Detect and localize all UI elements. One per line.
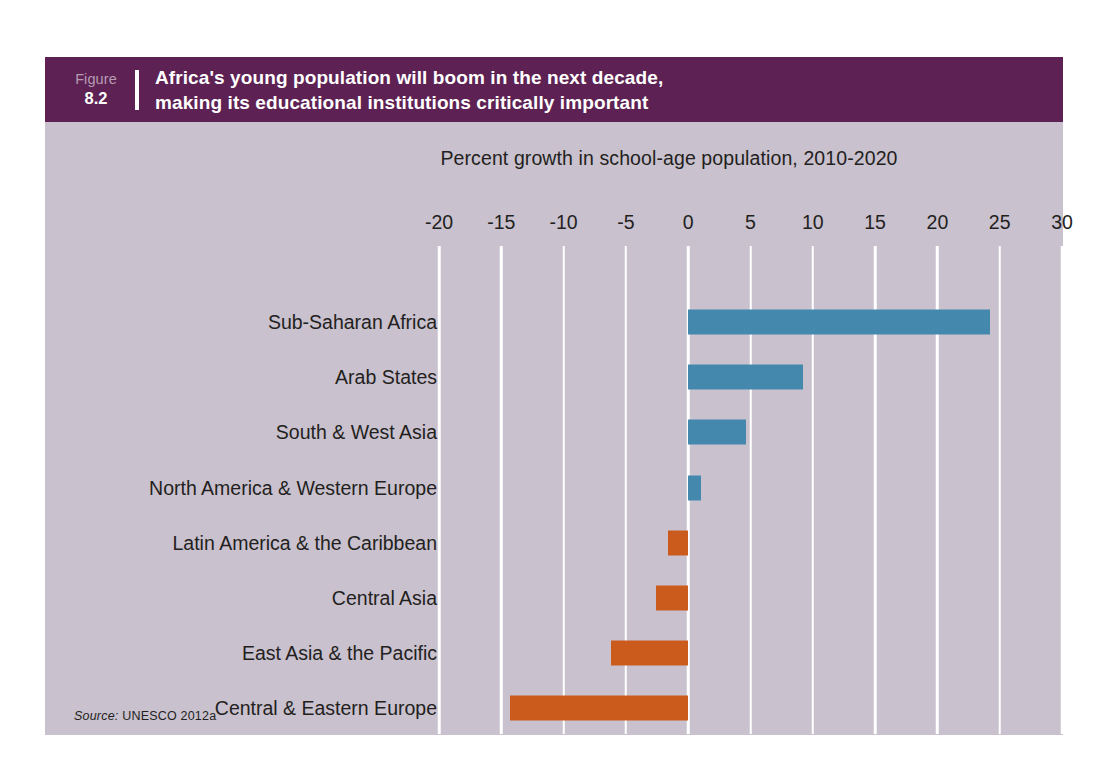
x-tick-label: -5	[617, 211, 634, 234]
figure-number: 8.2	[59, 88, 133, 108]
x-tick-label: 5	[745, 211, 756, 234]
figure-label: Figure	[59, 71, 133, 88]
bar	[688, 310, 990, 335]
bar	[688, 475, 700, 500]
category-label: East Asia & the Pacific	[242, 642, 437, 665]
bar	[668, 530, 688, 555]
source-note: Source: UNESCO 2012a	[74, 709, 216, 723]
figure-title-line-1: Africa's young population will boom in t…	[155, 65, 663, 90]
gridline	[438, 246, 441, 734]
x-tick-label: 0	[683, 211, 694, 234]
gridline	[500, 246, 503, 734]
category-label: North America & Western Europe	[149, 476, 437, 499]
figure-number-block: Figure 8.2	[45, 71, 133, 108]
bar	[688, 365, 803, 390]
bar	[688, 420, 745, 445]
source-label: Source:	[74, 709, 118, 723]
category-label: Central & Eastern Europe	[215, 697, 437, 720]
figure-header: Figure 8.2 Africa's young population wil…	[45, 57, 1063, 122]
x-tick-label: 25	[989, 211, 1011, 234]
category-label: Arab States	[335, 366, 437, 389]
bar	[656, 586, 688, 611]
gridline	[562, 246, 565, 734]
header-divider	[135, 70, 139, 110]
category-labels: Sub-Saharan AfricaArab StatesSouth & Wes…	[45, 122, 437, 735]
source-text: UNESCO 2012a	[122, 709, 216, 723]
category-label: Central Asia	[332, 587, 437, 610]
bar	[510, 696, 688, 721]
category-label: Sub-Saharan Africa	[268, 311, 437, 334]
x-tick-label: 10	[802, 211, 824, 234]
chart-area: Percent growth in school-age population,…	[45, 122, 1063, 735]
figure-title-line-2: making its educational institutions crit…	[155, 90, 663, 115]
category-label: South & West Asia	[276, 421, 437, 444]
plot-region: -20-15-10-5051015202530 Sub-Saharan Afri…	[45, 122, 1063, 735]
figure-card: Figure 8.2 Africa's young population wil…	[45, 57, 1063, 735]
category-label: Latin America & the Caribbean	[173, 531, 438, 554]
gridline	[1061, 246, 1064, 734]
x-tick-label: 20	[927, 211, 949, 234]
x-tick-label: -10	[550, 211, 578, 234]
x-tick-label: -15	[487, 211, 515, 234]
gridline	[998, 246, 1001, 734]
bar	[611, 641, 688, 666]
x-tick-label: 30	[1051, 211, 1073, 234]
figure-title: Africa's young population will boom in t…	[155, 65, 683, 115]
x-tick-label: 15	[864, 211, 886, 234]
